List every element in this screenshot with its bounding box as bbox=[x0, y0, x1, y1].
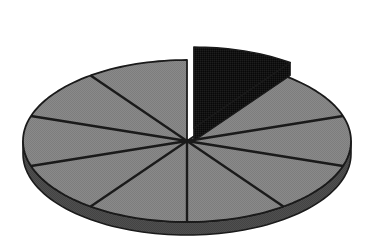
pie-chart-canvas bbox=[0, 0, 373, 250]
pie-body-group bbox=[23, 60, 351, 235]
pie-chart-figure bbox=[0, 0, 373, 250]
